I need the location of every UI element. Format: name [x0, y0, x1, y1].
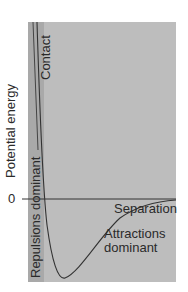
attractions-line2: dominant [104, 241, 165, 255]
attractions-label: Attractions dominant [104, 227, 165, 255]
separation-label: Separation [114, 202, 177, 216]
y-axis-label: Potential energy [4, 84, 18, 178]
potential-energy-diagram: Potential energy Contact Repulsions domi… [0, 0, 188, 292]
attractions-line1: Attractions [104, 227, 165, 241]
zero-tick-label: 0 [8, 192, 15, 206]
contact-label: Contact [39, 35, 53, 80]
repulsions-label: Repulsions dominant [29, 157, 43, 278]
